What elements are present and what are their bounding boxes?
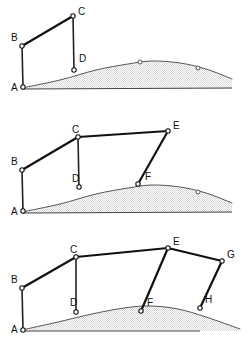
terrain-fill: [22, 185, 232, 213]
node-h-label: H: [205, 294, 212, 305]
beam-ce: [78, 131, 168, 137]
beam-ce: [76, 248, 168, 257]
node-f-label: F: [147, 297, 153, 308]
beam-eg: [168, 248, 222, 261]
node-d-label: D: [79, 53, 86, 64]
node-e[interactable]: [166, 129, 170, 133]
beam-ef: [141, 248, 168, 311]
node-c[interactable]: [74, 255, 78, 259]
terrain-marker-1: [138, 60, 142, 64]
node-e[interactable]: [166, 246, 170, 250]
stage-2-panel: ABCDEF: [0, 116, 252, 228]
node-f-label: F: [145, 171, 151, 182]
node-a-label: A: [11, 206, 18, 217]
node-g[interactable]: [220, 259, 224, 263]
terrain-marker-2: [196, 66, 200, 70]
node-d[interactable]: [74, 310, 78, 314]
beam-bc: [22, 16, 73, 46]
node-b-label: B: [11, 156, 18, 167]
beam-bc: [22, 137, 78, 170]
node-e-label: E: [173, 120, 180, 131]
node-c[interactable]: [76, 135, 80, 139]
post-ab: [22, 170, 23, 211]
node-b[interactable]: [20, 44, 24, 48]
figure-container: ABCD ABCDEF ABCDEFGH: [0, 0, 252, 350]
node-c-label: C: [70, 244, 77, 255]
node-c[interactable]: [71, 14, 75, 18]
node-c-label: C: [78, 6, 85, 17]
node-f[interactable]: [139, 309, 143, 313]
node-d-label: D: [72, 173, 79, 184]
node-b[interactable]: [20, 286, 24, 290]
node-e-label: E: [173, 236, 180, 247]
node-a[interactable]: [21, 209, 25, 213]
beam-ef: [138, 131, 168, 184]
beam-bc: [22, 257, 76, 288]
terrain-fill: [22, 306, 240, 331]
node-f[interactable]: [136, 182, 140, 186]
node-a-label: A: [11, 324, 18, 335]
node-b-label: B: [11, 32, 18, 43]
stage-1-panel: ABCD: [0, 0, 252, 112]
node-h[interactable]: [198, 306, 202, 310]
node-d[interactable]: [77, 185, 81, 189]
node-a[interactable]: [21, 328, 25, 332]
terrain-marker-1: [196, 190, 200, 194]
stage-3-panel: ABCDEFGH: [0, 232, 252, 350]
node-a-label: A: [11, 82, 18, 93]
post-cd: [73, 16, 74, 70]
node-b-label: B: [11, 274, 18, 285]
post-ab: [22, 288, 23, 330]
node-d[interactable]: [72, 68, 76, 72]
post-ab: [22, 46, 23, 87]
node-g-label: G: [227, 249, 235, 260]
node-c-label: C: [72, 124, 79, 135]
node-a[interactable]: [21, 85, 25, 89]
node-d-label: D: [70, 297, 77, 308]
terrain-fill: [22, 61, 232, 89]
node-b[interactable]: [20, 168, 24, 172]
